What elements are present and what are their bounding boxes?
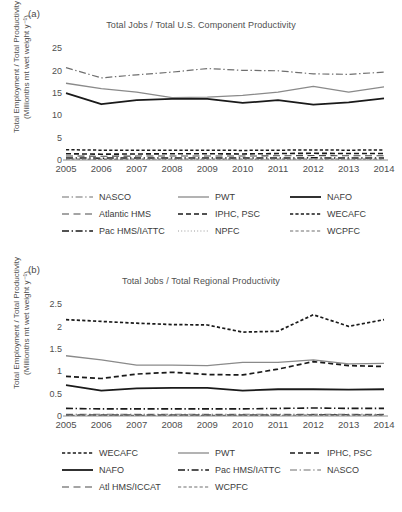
legend-item-wcpfc[interactable]: WCPFC	[290, 226, 392, 236]
y-tick-label: 2	[32, 322, 62, 332]
panel-b-plot-area	[66, 300, 384, 416]
legend-label-npfc: NPFC	[215, 226, 240, 236]
legend-swatch-wcpfc	[290, 226, 321, 236]
panel-b-ylabel-line2: (Millionths mt wet weight y⁻¹)	[22, 238, 33, 408]
legend-item-npfc[interactable]: NPFC	[178, 226, 290, 236]
legend-item-pwt[interactable]: PWT	[178, 192, 290, 202]
legend-swatch-iphc-psc	[178, 209, 209, 219]
legend-swatch-pac-hms-iattc	[62, 226, 93, 236]
legend-label-pwt: PWT	[215, 192, 235, 202]
panel-a-x-axis-ticks: 2005200620072008200920102011201220132014	[66, 163, 384, 177]
series-line-wecafc	[66, 315, 384, 332]
legend-item-iphc-psc[interactable]: IPHC, PSC	[290, 448, 392, 458]
panel-b-legend: WECAFCPWTIPHC, PSCNAFOPac HMS/IATTCNASCO…	[62, 444, 392, 495]
legend-swatch-iphc-psc	[290, 448, 321, 458]
panel-b-x-axis-ticks: 2005200620072008200920102011201220132014	[66, 419, 384, 433]
y-tick-label: 1.5	[32, 344, 62, 354]
x-tick-label: 2009	[197, 419, 218, 430]
panel-b-title: Total Jobs / Total Regional Productivity	[0, 276, 402, 286]
legend-row: Atl HMS/ICCATWCPFC	[62, 478, 392, 495]
panel-b: (b) Total Jobs / Total Regional Producti…	[0, 256, 402, 512]
legend-label-nasco: NASCO	[99, 192, 131, 202]
x-tick-label: 2005	[55, 419, 76, 430]
legend-label-iphc-psc: IPHC, PSC	[215, 209, 260, 219]
legend-label-pwt: PWT	[215, 448, 235, 458]
figure-container: (a) Total Jobs / Total U.S. Component Pr…	[0, 0, 402, 512]
panel-b-y-axis-ticks: 00.511.522.5	[32, 300, 62, 416]
legend-label-pac-hms-iattc: Pac HMS/IATTC	[99, 226, 165, 236]
series-line-atlantic-hms	[66, 156, 384, 157]
legend-label-wecafc: WECAFC	[99, 448, 138, 458]
series-line-pwt	[66, 83, 384, 97]
x-tick-label: 2010	[232, 419, 253, 430]
x-tick-label: 2007	[126, 419, 147, 430]
series-line-nafo	[66, 385, 384, 390]
legend-label-wecafc: WECAFC	[327, 209, 366, 219]
x-tick-label: 2013	[338, 163, 359, 174]
legend-swatch-npfc	[178, 226, 209, 236]
x-tick-label: 2012	[303, 419, 324, 430]
panel-a-ylabel-line1: Total Employment / Total Productivity	[12, 1, 21, 133]
series-line-nafo	[66, 93, 384, 105]
y-tick-label: 0.5	[32, 389, 62, 399]
y-tick-label: 25	[32, 43, 62, 53]
x-tick-label: 2011	[268, 419, 288, 430]
x-tick-label: 2013	[338, 419, 359, 430]
y-tick-label: 10	[32, 110, 62, 120]
legend-item-atl-hms-iccat[interactable]: Atl HMS/ICCAT	[62, 482, 178, 492]
legend-item-nasco[interactable]: NASCO	[62, 192, 178, 202]
legend-item-nasco[interactable]: NASCO	[290, 465, 392, 475]
legend-label-atl-hms-iccat: Atl HMS/ICCAT	[99, 482, 161, 492]
legend-item-wecafc[interactable]: WECAFC	[62, 448, 178, 458]
legend-swatch-pac-hms-iattc	[178, 465, 209, 475]
panel-b-ylabel-line1: Total Employment / Total Productivity	[12, 257, 21, 389]
legend-item-wecafc[interactable]: WECAFC	[290, 209, 392, 219]
legend-item-pac-hms-iattc[interactable]: Pac HMS/IATTC	[62, 226, 178, 236]
panel-a-ylabel-line2: (Millionths mt wet weight y⁻¹)	[22, 0, 33, 152]
legend-label-wcpfc: WCPFC	[215, 482, 248, 492]
panel-a-plot-area	[66, 44, 384, 160]
legend-swatch-nasco	[290, 465, 321, 475]
legend-item-atlantic-hms[interactable]: Atlantic HMS	[62, 209, 178, 219]
series-line-iphc-psc	[66, 153, 384, 154]
legend-row: NAFOPac HMS/IATTCNASCO	[62, 461, 392, 478]
legend-row: WECAFCPWTIPHC, PSC	[62, 444, 392, 461]
panel-a-y-axis-ticks: 0510152025	[32, 44, 62, 160]
x-tick-label: 2005	[55, 163, 76, 174]
x-tick-label: 2008	[161, 419, 182, 430]
legend-item-pac-hms-iattc[interactable]: Pac HMS/IATTC	[178, 465, 290, 475]
x-tick-label: 2014	[373, 419, 394, 430]
legend-item-nafo[interactable]: NAFO	[290, 192, 392, 202]
panel-a-legend: NASCOPWTNAFOAtlantic HMSIPHC, PSCWECAFCP…	[62, 188, 392, 239]
x-tick-label: 2012	[303, 163, 324, 174]
legend-swatch-nasco	[62, 192, 93, 202]
panel-a-title: Total Jobs / Total U.S. Component Produc…	[0, 20, 402, 30]
y-tick-label: 2.5	[32, 299, 62, 309]
legend-swatch-pwt	[178, 192, 209, 202]
legend-swatch-pwt	[178, 448, 209, 458]
legend-label-atlantic-hms: Atlantic HMS	[99, 209, 151, 219]
legend-swatch-wecafc	[62, 448, 93, 458]
legend-swatch-wecafc	[290, 209, 321, 219]
series-line-nasco	[66, 68, 384, 78]
x-tick-label: 2006	[91, 419, 112, 430]
x-tick-label: 2010	[232, 163, 253, 174]
legend-item-wcpfc[interactable]: WCPFC	[178, 482, 290, 492]
x-tick-label: 2007	[126, 163, 147, 174]
legend-label-nasco: NASCO	[327, 465, 359, 475]
y-tick-label: 20	[32, 66, 62, 76]
y-tick-label: 1	[32, 366, 62, 376]
x-tick-label: 2009	[197, 163, 218, 174]
legend-label-wcpfc: WCPFC	[327, 226, 360, 236]
legend-row: Atlantic HMSIPHC, PSCWECAFC	[62, 205, 392, 222]
y-tick-label: 15	[32, 88, 62, 98]
x-tick-label: 2008	[161, 163, 182, 174]
legend-label-nafo: NAFO	[327, 192, 352, 202]
legend-item-nafo[interactable]: NAFO	[62, 465, 178, 475]
legend-item-iphc-psc[interactable]: IPHC, PSC	[178, 209, 290, 219]
legend-swatch-nafo	[62, 465, 93, 475]
panel-b-lines	[66, 300, 384, 416]
legend-item-pwt[interactable]: PWT	[178, 448, 290, 458]
legend-swatch-nafo	[290, 192, 321, 202]
x-tick-label: 2011	[268, 163, 288, 174]
